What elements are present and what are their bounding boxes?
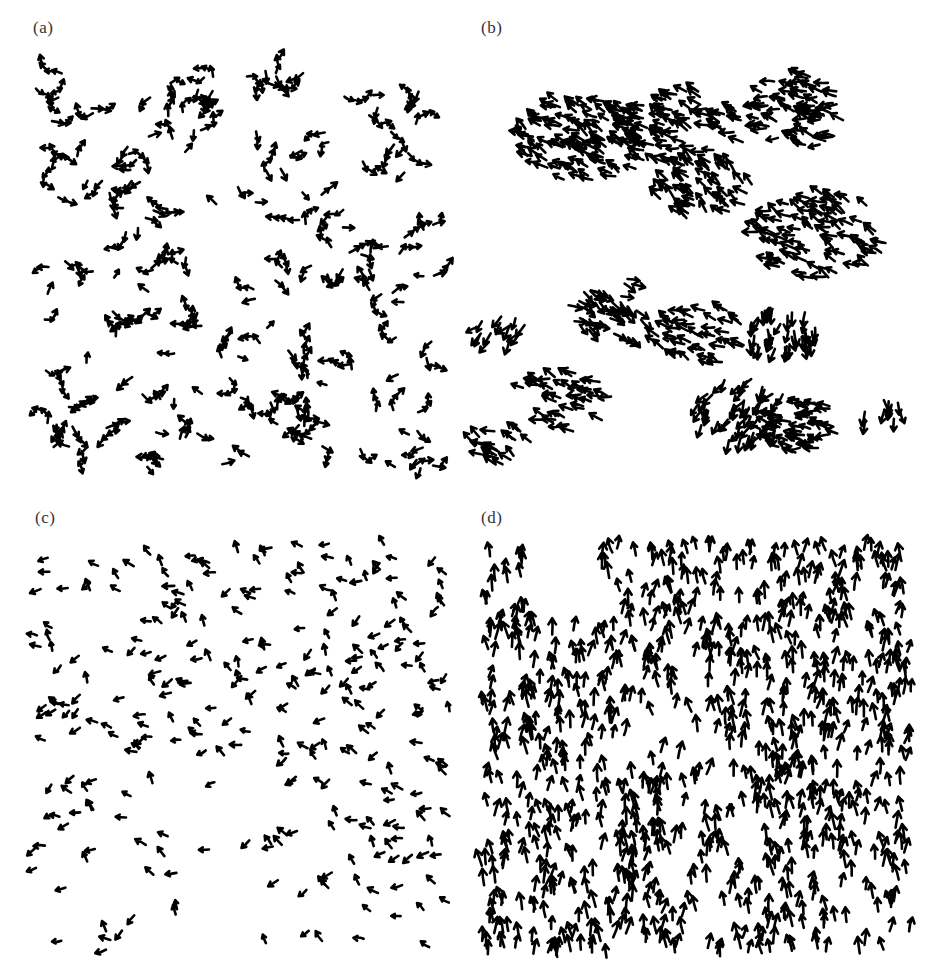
panel-label-c: (c) (35, 508, 55, 528)
panel-label-d: (d) (481, 508, 502, 528)
panel-c: (c) (0, 490, 466, 969)
particle-field-c (32, 540, 452, 950)
panel-b: (b) (466, 0, 933, 490)
particle-field-a (30, 65, 440, 475)
particle-field-b (476, 60, 896, 470)
panel-a: (a) (0, 0, 466, 490)
panel-label-b: (b) (481, 18, 502, 38)
particle-field-d (481, 540, 911, 950)
panel-label-a: (a) (33, 18, 53, 38)
panel-d: (d) (466, 490, 933, 969)
